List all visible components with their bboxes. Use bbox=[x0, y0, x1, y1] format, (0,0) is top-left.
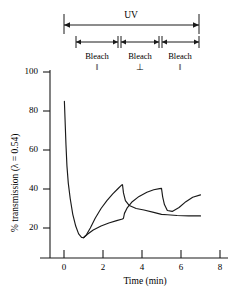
x-axis-ticks bbox=[64, 250, 220, 258]
bleach-label-1: Bleach bbox=[74, 52, 120, 61]
bleach-symbol-3: ‖ bbox=[157, 63, 203, 72]
bleach-symbol-1: ‖ bbox=[74, 63, 120, 72]
chart-figure: 100 80 60 40 20 0 2 4 6 8 Time (min) % t… bbox=[0, 0, 241, 298]
uv-annotation-label: UV bbox=[111, 11, 151, 21]
x-tick-label-6: 6 bbox=[172, 263, 190, 272]
bleach-label-3: Bleach bbox=[157, 52, 203, 61]
y-axis-ticks bbox=[43, 72, 50, 228]
data-curve-lower bbox=[84, 188, 201, 237]
x-tick-label-4: 4 bbox=[133, 263, 151, 272]
data-curve-upper bbox=[64, 101, 200, 238]
x-tick-label-0: 0 bbox=[55, 263, 73, 272]
x-axis-title: Time (min) bbox=[85, 277, 205, 287]
bleach-brackets bbox=[76, 36, 199, 48]
y-tick-label-80: 80 bbox=[12, 106, 38, 115]
y-axis-title: % transmission (λ = 0.54) bbox=[11, 134, 21, 232]
y-tick-label-100: 100 bbox=[12, 67, 38, 76]
x-tick-label-8: 8 bbox=[211, 263, 229, 272]
x-tick-label-2: 2 bbox=[94, 263, 112, 272]
